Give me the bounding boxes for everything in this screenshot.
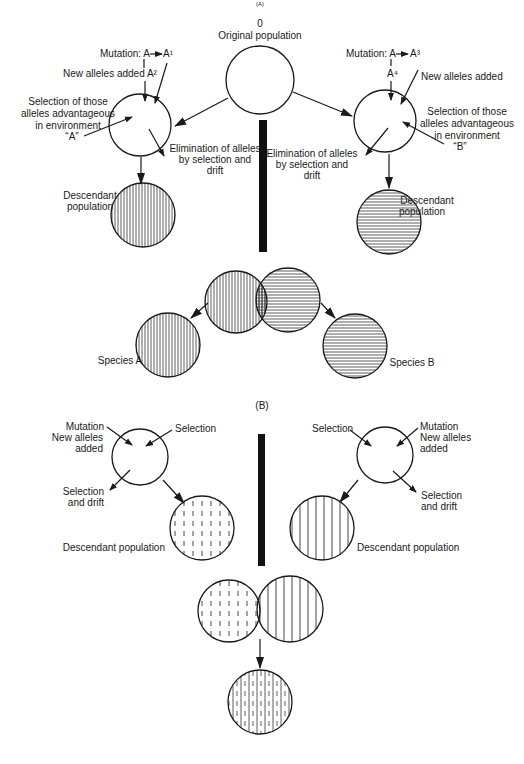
b-right-descendant-arrow	[340, 480, 358, 502]
left-elimination-line2: by selection and	[179, 154, 251, 165]
right-mutation-label: Mutation: A	[346, 48, 396, 59]
part-a-label: (A)	[256, 1, 264, 7]
species-b-label: Species B	[389, 357, 434, 368]
arrow-to-species-a	[191, 303, 208, 318]
b-left-new-alleles-2: added	[75, 443, 103, 454]
b-left-new-alleles-1: New alleles	[52, 432, 103, 443]
part-b-label: (B)	[255, 400, 268, 411]
right-elimination-line2: by selection and	[276, 159, 348, 170]
geographic-barrier-a	[259, 120, 267, 252]
b-left-descendant-label: Descendant population	[63, 542, 165, 553]
right-allele-3: A³	[410, 48, 421, 59]
b-left-selection-drift-2: and drift	[68, 497, 104, 508]
original-population-circle	[226, 46, 294, 114]
arrow-to-pop-b	[293, 92, 352, 116]
left-selection-line3: in environment	[35, 120, 101, 131]
left-descendant-line2: population	[67, 201, 113, 212]
b-right-selection-drift-2: and drift	[421, 501, 457, 512]
population-b-right-circle	[357, 427, 413, 483]
species-a-circle	[136, 313, 200, 377]
population-b-circle	[354, 90, 416, 152]
right-selection-line2: alleles advantageous	[420, 118, 514, 129]
b-right-new-alleles-1: New alleles	[420, 432, 471, 443]
species-a-label: Species A	[98, 355, 143, 366]
b-left-mutation: Mutation	[66, 421, 104, 432]
left-allele-1: A¹	[163, 48, 174, 59]
b-right-selection-drift-1: Selection	[421, 490, 462, 501]
left-descendant-line1: Descendant	[63, 190, 117, 201]
geographic-barrier-b	[258, 434, 265, 566]
b-left-descendant-arrow	[163, 480, 184, 503]
right-selection-line4: “B”	[453, 141, 466, 152]
b-right-new-alleles-2: added	[420, 443, 448, 454]
right-selection-line1: Selection of those	[427, 106, 507, 117]
left-new-alleles: New alleles added A²	[63, 68, 158, 79]
left-selection-line4: “A”	[65, 131, 78, 142]
arrow-to-pop-a	[175, 98, 228, 126]
original-number: 0	[257, 18, 263, 29]
population-a-circle	[109, 94, 171, 156]
right-elimination-line3: drift	[304, 170, 321, 181]
speciation-diagram: (A) 0 Original population Mutation: A A¹…	[0, 0, 524, 764]
descendant-b-circle	[357, 190, 421, 254]
arrow-to-species-b	[321, 303, 335, 318]
b-left-selection-drift-1: Selection	[63, 486, 104, 497]
merged-population-circle	[228, 670, 292, 734]
right-selection-line3: in environment	[434, 130, 500, 141]
b-left-selection: Selection	[175, 423, 216, 434]
b-right-descendant-circle	[290, 496, 354, 560]
left-elimination-line3: drift	[207, 165, 224, 176]
species-b-circle	[323, 314, 387, 378]
left-selection-line2: alleles advantageous	[21, 108, 115, 119]
b-right-selection: Selection	[312, 423, 353, 434]
left-elimination-line1: Elimination of alleles	[169, 143, 260, 154]
right-allele-4: A⁴	[387, 68, 398, 79]
b-left-descendant-circle	[170, 496, 234, 560]
b-right-mutation: Mutation	[420, 421, 458, 432]
descendant-a-circle	[111, 183, 175, 247]
b-right-descendant-label: Descendant population	[357, 542, 459, 553]
right-elimination-line1: Elimination of alleles	[266, 148, 357, 159]
original-label: Original population	[218, 30, 301, 41]
left-selection-line1: Selection of those	[28, 96, 108, 107]
right-new-alleles-arrow	[401, 70, 418, 104]
left-mutation-label: Mutation: A	[100, 48, 150, 59]
right-new-alleles: New alleles added	[421, 71, 503, 82]
